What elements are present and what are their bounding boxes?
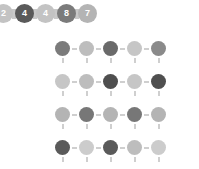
grid-node-3-1[interactable]: [79, 140, 94, 155]
grid-node-2-1[interactable]: [79, 107, 94, 122]
badge-4[interactable]: 7: [78, 4, 97, 23]
vertical-link: [151, 122, 166, 131]
badge-0[interactable]: 2: [0, 4, 13, 23]
vertical-link: [127, 89, 142, 98]
grid-node-3-2[interactable]: [103, 140, 118, 155]
vertical-link: [55, 122, 70, 131]
vertical-link: [103, 155, 118, 164]
grid-row: [55, 107, 166, 122]
grid-node-0-1[interactable]: [79, 41, 94, 56]
grid-node-1-4[interactable]: [151, 74, 166, 89]
grid-vertical-links: [55, 155, 166, 164]
grid-vertical-links: [55, 122, 166, 131]
badge-2[interactable]: 4: [36, 4, 55, 23]
vertical-link: [79, 122, 94, 131]
vertical-link: [55, 89, 70, 98]
grid-row: [55, 74, 166, 89]
horizontal-link: [118, 81, 127, 83]
badge-3[interactable]: 8: [57, 4, 76, 23]
horizontal-link: [118, 114, 127, 116]
grid-vertical-links: [55, 56, 166, 65]
horizontal-link: [70, 81, 79, 83]
horizontal-link: [94, 147, 103, 149]
horizontal-link: [142, 81, 151, 83]
vertical-link: [103, 56, 118, 65]
grid-node-1-2[interactable]: [103, 74, 118, 89]
horizontal-link: [70, 114, 79, 116]
grid-node-0-0[interactable]: [55, 41, 70, 56]
vertical-link: [151, 56, 166, 65]
grid-node-2-2[interactable]: [103, 107, 118, 122]
badge-chain: 24487: [0, 4, 97, 23]
grid-node-3-3[interactable]: [127, 140, 142, 155]
grid-node-0-4[interactable]: [151, 41, 166, 56]
grid-row: [55, 41, 166, 56]
horizontal-link: [142, 147, 151, 149]
horizontal-link: [118, 48, 127, 50]
grid-node-2-0[interactable]: [55, 107, 70, 122]
vertical-link: [79, 56, 94, 65]
vertical-link: [79, 155, 94, 164]
vertical-link: [127, 155, 142, 164]
grid-node-1-1[interactable]: [79, 74, 94, 89]
vertical-link: [127, 122, 142, 131]
horizontal-link: [94, 48, 103, 50]
vertical-link: [151, 89, 166, 98]
vertical-link: [151, 155, 166, 164]
grid-row: [55, 140, 166, 155]
grid-node-0-3[interactable]: [127, 41, 142, 56]
vertical-link: [103, 122, 118, 131]
horizontal-link: [142, 48, 151, 50]
grid-node-1-3[interactable]: [127, 74, 142, 89]
horizontal-link: [70, 48, 79, 50]
grid-vertical-links: [55, 89, 166, 98]
vertical-link: [79, 89, 94, 98]
horizontal-link: [70, 147, 79, 149]
grid-node-2-3[interactable]: [127, 107, 142, 122]
horizontal-link: [94, 81, 103, 83]
grid-node-3-4[interactable]: [151, 140, 166, 155]
grid-node-1-0[interactable]: [55, 74, 70, 89]
grid-node-0-2[interactable]: [103, 41, 118, 56]
vertical-link: [55, 56, 70, 65]
vertical-link: [55, 155, 70, 164]
grid-node-2-4[interactable]: [151, 107, 166, 122]
vertical-link: [103, 89, 118, 98]
horizontal-link: [118, 147, 127, 149]
horizontal-link: [142, 114, 151, 116]
node-grid: [55, 41, 166, 169]
badge-1[interactable]: 4: [15, 4, 34, 23]
vertical-link: [127, 56, 142, 65]
grid-node-3-0[interactable]: [55, 140, 70, 155]
horizontal-link: [94, 114, 103, 116]
